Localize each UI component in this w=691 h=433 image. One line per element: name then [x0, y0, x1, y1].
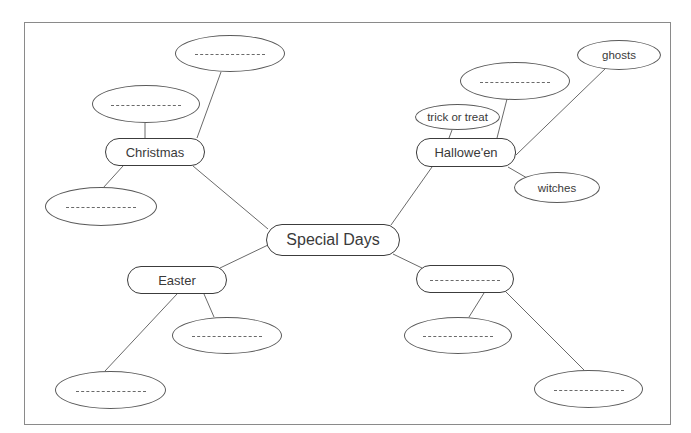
center-node: Special Days: [266, 224, 400, 256]
branch-easter: Easter: [127, 266, 227, 294]
christmas-child-lower-blank[interactable]: [45, 187, 157, 226]
link-halloween-trick: [449, 130, 452, 138]
blank-line: [423, 336, 493, 337]
link-christmas-lower: [103, 166, 123, 188]
link-easter-right: [204, 294, 214, 317]
link-center-blank: [393, 254, 422, 268]
halloween-child-trick-or-treat: trick or treat: [415, 104, 500, 130]
child-label: trick or treat: [427, 111, 488, 123]
christmas-child-upper-blank[interactable]: [92, 85, 200, 123]
halloween-child-witches: witches: [514, 172, 600, 203]
branch-label: Christmas: [126, 145, 185, 160]
link-christmas-top: [197, 72, 221, 138]
link-blank-lower: [469, 293, 484, 317]
branch-label: Hallowe'en: [434, 145, 497, 160]
blank-branch-child-right-blank[interactable]: [534, 370, 643, 408]
easter-child-lower-blank[interactable]: [55, 371, 166, 409]
branch-label: Easter: [158, 273, 196, 288]
halloween-child-blank[interactable]: [460, 62, 570, 100]
link-center-christmas: [193, 166, 268, 229]
blank-line: [111, 105, 181, 106]
blank-line: [554, 390, 624, 391]
blank-branch-child-lower-blank[interactable]: [404, 317, 512, 354]
link-center-easter: [220, 245, 268, 268]
link-easter-lower: [105, 294, 177, 371]
halloween-child-ghosts: ghosts: [577, 40, 661, 70]
branch-christmas: Christmas: [105, 138, 205, 166]
center-label: Special Days: [286, 231, 379, 249]
blank-line: [195, 54, 265, 55]
link-center-halloween: [391, 167, 432, 225]
branch-blank[interactable]: [416, 265, 514, 293]
blank-line: [76, 391, 146, 392]
blank-line: [192, 336, 262, 337]
branch-halloween: Hallowe'en: [416, 138, 516, 167]
child-label: witches: [538, 182, 576, 194]
christmas-child-top-blank[interactable]: [175, 35, 285, 72]
child-label: ghosts: [602, 49, 636, 61]
blank-line: [430, 280, 500, 281]
easter-child-right-blank[interactable]: [172, 317, 282, 354]
link-blank-right: [505, 291, 584, 370]
blank-line: [480, 82, 550, 83]
blank-line: [66, 207, 136, 208]
